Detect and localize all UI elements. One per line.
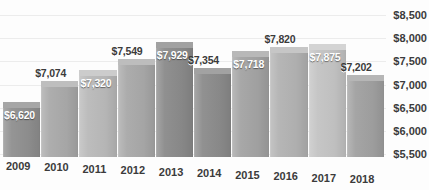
plot-area: $6,620$7,074$7,320$7,549$7,929$7,354$7,7… [0, 0, 386, 158]
bar-front-face [118, 65, 155, 157]
bar-value-label-2015: $7,718 [233, 59, 264, 70]
y-axis-label-6000: $6,000 [393, 125, 427, 137]
y-axis-label-7500: $7,500 [393, 55, 427, 67]
x-axis-label-2016: 2016 [273, 170, 297, 182]
bar-front-face [194, 74, 231, 157]
x-axis-label-2010: 2010 [44, 161, 68, 173]
bar-value-label-2009: $6,620 [4, 110, 35, 121]
gridline [0, 15, 386, 16]
bar-value-label-2018: $7,202 [341, 62, 372, 73]
x-axis-label-2012: 2012 [121, 164, 145, 176]
bar-front-face [347, 81, 384, 157]
x-axis-label-2018: 2018 [350, 173, 374, 185]
bar-value-label-2012: $7,549 [112, 46, 143, 57]
y-axis-label-8500: $8,500 [393, 9, 427, 21]
y-axis-label-5500: $5,500 [393, 148, 427, 160]
x-axis-label-2013: 2013 [159, 166, 183, 178]
x-axis-label-2014: 2014 [197, 167, 221, 179]
bar-value-label-2010: $7,074 [35, 68, 66, 79]
y-axis-label-6500: $6,500 [393, 102, 427, 114]
x-axis-label-2009: 2009 [6, 160, 30, 172]
bar-value-label-2017: $7,875 [310, 52, 341, 63]
bar-value-label-2011: $7,320 [80, 78, 111, 89]
bar-chart: $6,620$7,074$7,320$7,549$7,929$7,354$7,7… [0, 0, 429, 190]
bar-value-label-2016: $7,820 [264, 34, 295, 45]
x-axis-label-2015: 2015 [235, 169, 259, 181]
bar-value-label-2014: $7,354 [188, 55, 219, 66]
y-axis-label-7000: $7,000 [393, 79, 427, 91]
bar-front-face [232, 57, 269, 157]
bar-value-label-2013: $7,929 [157, 50, 188, 61]
y-axis-label-8000: $8,000 [393, 32, 427, 44]
gridline [0, 38, 386, 39]
bar-2012[interactable] [118, 59, 155, 157]
bar-2018[interactable] [347, 75, 384, 157]
bar-front-face [41, 87, 78, 157]
bar-2016[interactable] [270, 47, 307, 157]
bar-front-face [270, 53, 307, 157]
bar-2010[interactable] [41, 81, 78, 157]
x-axis-label-2017: 2017 [312, 172, 336, 184]
x-axis-label-2011: 2011 [82, 163, 106, 175]
bar-2014[interactable] [194, 68, 231, 157]
